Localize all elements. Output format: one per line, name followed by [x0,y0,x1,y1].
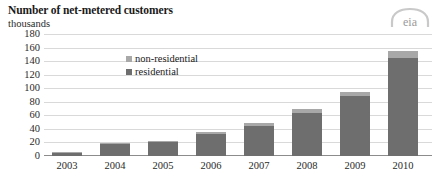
y-tick-60: 60 [6,110,40,120]
legend-item-non-residential[interactable]: non-residential [126,52,198,65]
legend-swatch-non-residential [126,56,132,62]
bar-2004-residential [100,144,130,156]
bar-2010-residential [388,58,418,156]
x-tick-2008: 2008 [284,160,330,171]
bar-2005[interactable] [148,141,178,156]
x-tick-2004: 2004 [92,160,138,171]
x-tick-2003: 2003 [44,160,90,171]
bar-2009[interactable] [340,92,370,156]
svg-text:eia: eia [403,15,418,29]
y-tick-160: 160 [6,43,40,53]
x-tick-2006: 2006 [188,160,234,171]
bar-2003-residential [52,153,82,156]
legend-label-residential: residential [135,66,179,78]
y-axis-labels: 180 160 140 120 100 80 60 40 20 0 [0,34,40,156]
x-tick-2010: 2010 [380,160,426,171]
y-tick-0: 0 [6,151,40,161]
y-tick-120: 120 [6,70,40,80]
y-tick-140: 140 [6,56,40,66]
bar-2003[interactable] [52,152,82,156]
bar-2006[interactable] [196,132,226,156]
bar-2007[interactable] [244,123,274,156]
gridline-120 [44,75,432,76]
y-tick-180: 180 [6,29,40,39]
plot-area [44,34,432,156]
y-tick-100: 100 [6,83,40,93]
bar-2007-residential [244,126,274,156]
y-tick-40: 40 [6,124,40,134]
x-tick-2009: 2009 [332,160,378,171]
chart-legend: non-residential residential [126,52,198,78]
bar-2004[interactable] [100,143,130,156]
eia-logo: eia [388,6,432,30]
chart-title: Number of net-metered customers [8,4,173,16]
gridline-40 [44,129,432,130]
gridline-140 [44,61,432,62]
gridline-80 [44,102,432,103]
x-tick-2007: 2007 [236,160,282,171]
gridline-160 [44,48,432,49]
legend-swatch-residential [126,69,132,75]
y-tick-20: 20 [6,137,40,147]
bar-2006-residential [196,134,226,156]
gridline-180 [44,34,432,35]
chart-container: Number of net-metered customers thousand… [0,0,438,188]
bar-2005-residential [148,142,178,156]
bar-2010-non-residential [388,51,418,58]
legend-label-non-residential: non-residential [135,53,198,65]
gridline-100 [44,88,432,89]
legend-item-residential[interactable]: residential [126,65,198,78]
bar-2010[interactable] [388,51,418,156]
y-tick-80: 80 [6,97,40,107]
x-axis-labels: 2003 2004 2005 2006 2007 2008 2009 2010 [44,160,432,176]
bar-2008[interactable] [292,109,322,156]
bar-2009-residential [340,96,370,156]
bar-2008-residential [292,113,322,156]
gridline-60 [44,115,432,116]
x-tick-2005: 2005 [140,160,186,171]
